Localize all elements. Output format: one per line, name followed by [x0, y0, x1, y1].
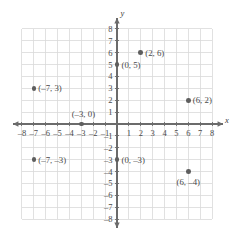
y-tick-label: 5 [108, 60, 112, 69]
y-tick-label: –4 [104, 167, 113, 176]
y-tick-label: 2 [108, 96, 112, 105]
y-tick-label: 3 [108, 84, 112, 93]
x-axis-label: x [225, 116, 229, 125]
data-point-label: (6, 2) [193, 96, 212, 105]
data-point [138, 50, 143, 55]
x-tick-label: 3 [151, 129, 155, 138]
y-tick-label: –8 [104, 215, 113, 224]
x-tick-label: 2 [139, 129, 143, 138]
y-tick-label: 7 [108, 37, 112, 46]
y-tick-label: –6 [104, 191, 113, 200]
data-point [115, 157, 120, 162]
x-tick-label: –5 [53, 129, 62, 138]
x-tick-label: 8 [210, 129, 214, 138]
y-tick-label: –1 [104, 132, 113, 141]
x-axis-arrow-right [218, 121, 224, 126]
x-axis-arrow-left [13, 121, 18, 126]
coordinate-plane-chart: –8–7–6–5–4–3–2–11234567887654321–1–2–3–4… [0, 0, 241, 237]
x-tick-label: 5 [174, 129, 178, 138]
data-point-label: (–7, –3) [38, 155, 66, 164]
x-tick-label: 6 [186, 129, 190, 138]
y-tick-label: –2 [104, 144, 113, 153]
y-axis-label: y [121, 9, 125, 18]
data-point-label: (0, –3) [122, 155, 145, 164]
x-tick-label: –7 [30, 129, 39, 138]
y-axis-arrow-down [114, 223, 119, 229]
y-tick-label: –5 [104, 179, 113, 188]
y-tick-label: 1 [108, 108, 112, 117]
data-point [115, 62, 120, 67]
y-tick-label: 8 [108, 25, 112, 34]
data-point [79, 122, 84, 127]
y-tick-label: 6 [108, 48, 112, 57]
data-point-label: (2, 6) [145, 48, 164, 57]
y-tick-label: 4 [108, 72, 112, 81]
x-tick-label: –3 [77, 129, 86, 138]
x-tick-label: –6 [41, 129, 50, 138]
x-tick-label: –8 [18, 129, 27, 138]
x-tick-label: 7 [198, 129, 202, 138]
data-point-label: (6, –4) [177, 178, 200, 187]
y-tick-label: –3 [104, 155, 113, 164]
y-tick-label: –7 [104, 203, 113, 212]
data-point [186, 98, 191, 103]
y-axis-arrow-up [114, 18, 119, 24]
chart-canvas [0, 0, 241, 237]
data-point-label: (–7, 3) [38, 84, 61, 93]
data-point [186, 169, 191, 174]
data-point [32, 86, 37, 91]
data-point [32, 157, 37, 162]
data-point-label: (–3, 0) [72, 110, 95, 119]
data-point-label: (0, 5) [122, 60, 141, 69]
x-tick-label: 1 [127, 129, 131, 138]
x-tick-label: –4 [65, 129, 74, 138]
x-tick-label: 4 [162, 129, 166, 138]
x-tick-label: –2 [89, 129, 98, 138]
